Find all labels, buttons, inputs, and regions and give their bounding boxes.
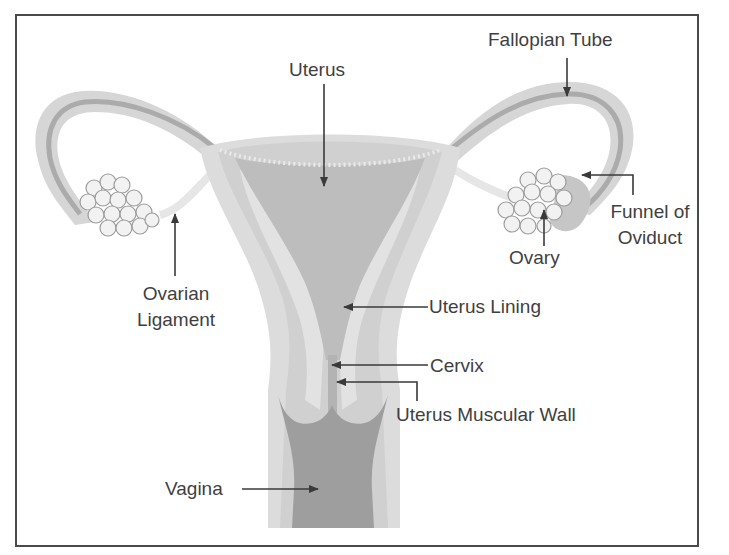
label-vagina: Vagina bbox=[165, 478, 223, 500]
left-ovarian-ligament bbox=[160, 175, 210, 215]
label-uterus-muscular-wall: Uterus Muscular Wall bbox=[396, 404, 576, 426]
label-ovary: Ovary bbox=[509, 247, 560, 269]
label-funnel-of-oviduct-line2: Oviduct bbox=[595, 227, 705, 249]
label-ovarian-ligament-line1: Ovarian bbox=[116, 283, 236, 305]
left-ovary bbox=[80, 174, 159, 236]
cervical-canal bbox=[328, 355, 337, 415]
label-funnel-of-oviduct-line1: Funnel of bbox=[595, 201, 705, 223]
reproductive-system-illustration bbox=[0, 0, 729, 555]
label-uterus-lining: Uterus Lining bbox=[429, 296, 541, 318]
label-fallopian-tube: Fallopian Tube bbox=[488, 29, 613, 51]
label-ovarian-ligament: Ovarian Ligament bbox=[116, 283, 236, 331]
label-uterus: Uterus bbox=[289, 59, 345, 81]
label-funnel-of-oviduct: Funnel of Oviduct bbox=[595, 201, 705, 249]
label-cervix: Cervix bbox=[430, 355, 484, 377]
label-ovarian-ligament-line2: Ligament bbox=[116, 309, 236, 331]
